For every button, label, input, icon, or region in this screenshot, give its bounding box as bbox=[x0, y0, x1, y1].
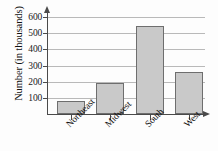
y-axis-tick bbox=[43, 17, 48, 18]
y-axis-tick-label: 400 bbox=[28, 44, 42, 54]
gridline bbox=[47, 49, 205, 50]
bar-chart: Number (in thousands) 100200300400500600… bbox=[0, 0, 218, 151]
y-axis-arrow-icon bbox=[44, 6, 50, 13]
gridline bbox=[47, 66, 205, 67]
gridline bbox=[47, 17, 205, 18]
y-axis-title: Number (in thousands) bbox=[13, 0, 24, 114]
y-axis-tick bbox=[43, 82, 48, 83]
y-axis-tick-label: 300 bbox=[28, 61, 42, 71]
y-axis-tick bbox=[43, 33, 48, 34]
y-axis-tick-label: 100 bbox=[28, 93, 42, 103]
bar-south bbox=[136, 26, 164, 114]
bar-west bbox=[175, 72, 203, 114]
y-axis-tick-label: 500 bbox=[28, 28, 42, 38]
y-axis-tick bbox=[43, 98, 48, 99]
y-axis-tick bbox=[43, 66, 48, 67]
gridline bbox=[47, 33, 205, 34]
y-axis-tick-label: 600 bbox=[28, 12, 42, 22]
y-axis-tick bbox=[43, 49, 48, 50]
y-axis-tick-label: 200 bbox=[28, 77, 42, 87]
